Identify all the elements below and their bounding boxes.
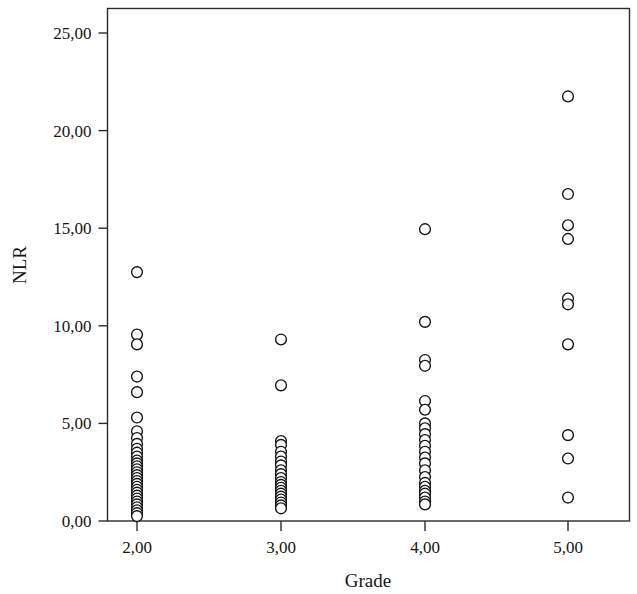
data-point [276, 380, 287, 391]
data-point [563, 189, 574, 200]
data-point [276, 503, 287, 514]
data-point [420, 316, 431, 327]
data-point [132, 267, 143, 278]
data-point [132, 371, 143, 382]
scatter-plot-figure: 0,005,0010,0015,0020,0025,00 2,003,004,0… [0, 0, 637, 594]
chart-canvas: 0,005,0010,0015,0020,0025,00 2,003,004,0… [0, 0, 637, 594]
y-axis-tick-label: 25,00 [53, 24, 91, 43]
data-point [563, 339, 574, 350]
data-point [563, 430, 574, 441]
x-axis-tick-label: 2,00 [122, 538, 152, 557]
x-axis-tick-label: 5,00 [553, 538, 583, 557]
x-axis-tick-label-group: 2,003,004,005,00 [122, 538, 583, 557]
y-axis-tick-label: 5,00 [62, 414, 92, 433]
data-point [132, 339, 143, 350]
data-point [563, 299, 574, 310]
y-axis-title: NLR [9, 246, 30, 284]
x-axis-tick-label: 3,00 [266, 538, 296, 557]
data-point [420, 360, 431, 371]
data-point [132, 387, 143, 398]
data-point-group [132, 91, 574, 521]
y-axis-tick-group [99, 33, 108, 521]
y-axis-tick-label: 10,00 [53, 317, 91, 336]
data-point [563, 234, 574, 245]
x-axis-tick-label: 4,00 [410, 538, 440, 557]
x-axis-title: Grade [345, 570, 391, 591]
y-axis-tick-label: 15,00 [53, 219, 91, 238]
data-point [132, 412, 143, 423]
plot-frame [108, 9, 630, 522]
data-point [276, 334, 287, 345]
data-point [420, 224, 431, 235]
data-point [563, 91, 574, 102]
y-axis-tick-label: 0,00 [62, 512, 92, 531]
y-axis-tick-label-group: 0,005,0010,0015,0020,0025,00 [53, 24, 91, 531]
y-axis-tick-label: 20,00 [53, 122, 91, 141]
data-point [563, 492, 574, 503]
data-point [420, 499, 431, 510]
x-axis-tick-group [137, 521, 568, 531]
data-point [563, 220, 574, 231]
data-point [132, 511, 143, 522]
data-point [420, 404, 431, 415]
data-point [563, 453, 574, 464]
